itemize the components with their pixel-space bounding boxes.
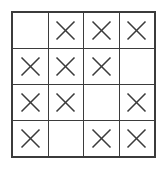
grid-cell-r2c3[interactable]	[84, 49, 120, 84]
grid-cell-r4c2[interactable]	[49, 121, 85, 156]
x-mark-icon	[91, 56, 112, 77]
x-mark-icon	[20, 128, 41, 149]
grid-cell-r3c2[interactable]	[49, 85, 85, 120]
x-mark-icon	[126, 92, 147, 113]
x-mark-icon	[55, 92, 76, 113]
grid-row	[13, 85, 154, 121]
x-mark-icon	[126, 128, 147, 149]
grid-cell-r1c2[interactable]	[49, 13, 85, 48]
grid-cell-r3c1[interactable]	[13, 85, 49, 120]
grid-cell-r3c4[interactable]	[120, 85, 155, 120]
grid-cell-r2c2[interactable]	[49, 49, 85, 84]
x-mark-icon	[20, 92, 41, 113]
grid-cell-r3c3[interactable]	[84, 85, 120, 120]
grid-row	[13, 13, 154, 49]
grid-cell-r1c4[interactable]	[120, 13, 155, 48]
grid-cell-r1c1[interactable]	[13, 13, 49, 48]
grid-row	[13, 121, 154, 156]
x-mark-icon	[55, 56, 76, 77]
x-mark-icon	[126, 20, 147, 41]
grid-cell-r4c3[interactable]	[84, 121, 120, 156]
grid-cell-r2c1[interactable]	[13, 49, 49, 84]
grid-row	[13, 49, 154, 85]
x-mark-icon	[91, 128, 112, 149]
x-mark-icon	[91, 20, 112, 41]
grid-cell-r4c1[interactable]	[13, 121, 49, 156]
grid-cell-r2c4[interactable]	[120, 49, 155, 84]
grid-cell-r4c4[interactable]	[120, 121, 155, 156]
x-mark-icon	[20, 56, 41, 77]
x-mark-icon	[55, 20, 76, 41]
mark-grid	[11, 11, 156, 158]
grid-cell-r1c3[interactable]	[84, 13, 120, 48]
